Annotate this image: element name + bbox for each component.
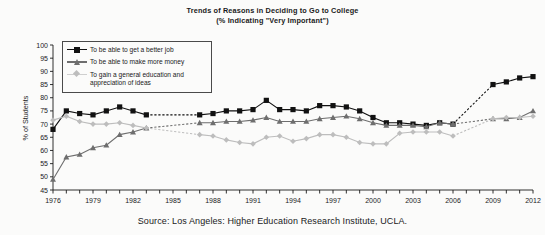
svg-text:55: 55 <box>40 160 48 167</box>
svg-text:100: 100 <box>36 42 48 49</box>
svg-text:1979: 1979 <box>85 197 101 204</box>
svg-text:2006: 2006 <box>445 197 461 204</box>
svg-text:85: 85 <box>40 81 48 88</box>
svg-text:1994: 1994 <box>285 197 301 204</box>
svg-text:1982: 1982 <box>125 197 141 204</box>
svg-text:2012: 2012 <box>525 197 541 204</box>
svg-text:1976: 1976 <box>45 197 61 204</box>
triangle-marker-icon <box>67 58 87 66</box>
chart-container: Trends of Reasons in Deciding to Go to C… <box>0 0 545 235</box>
source-caption: Source: Los Angeles: Higher Education Re… <box>0 216 545 226</box>
legend-item-better-job: To be able to get a better job <box>67 46 211 55</box>
chart-legend: To be able to get a better job To be abl… <box>62 41 212 93</box>
svg-text:2009: 2009 <box>485 197 501 204</box>
svg-text:90: 90 <box>40 68 48 75</box>
svg-text:75: 75 <box>40 107 48 114</box>
svg-text:80: 80 <box>40 94 48 101</box>
svg-text:1997: 1997 <box>325 197 341 204</box>
diamond-marker-icon <box>67 70 87 78</box>
plot-area: 4550556065707580859095100197619791982198… <box>0 0 545 235</box>
square-marker-icon <box>67 46 87 54</box>
svg-text:95: 95 <box>40 55 48 62</box>
legend-item-general-education: To gain a general education and apprecia… <box>67 70 211 87</box>
legend-label-more-money: To be able to make more money <box>90 58 184 67</box>
svg-text:50: 50 <box>40 173 48 180</box>
legend-item-more-money: To be able to make more money <box>67 58 211 67</box>
svg-text:45: 45 <box>40 187 48 194</box>
svg-text:1988: 1988 <box>205 197 221 204</box>
svg-text:70: 70 <box>40 121 48 128</box>
svg-text:1985: 1985 <box>165 197 181 204</box>
svg-text:1991: 1991 <box>245 197 261 204</box>
svg-text:2003: 2003 <box>405 197 421 204</box>
svg-text:65: 65 <box>40 134 48 141</box>
svg-text:2000: 2000 <box>365 197 381 204</box>
legend-label-better-job: To be able to get a better job <box>90 46 174 55</box>
svg-text:60: 60 <box>40 147 48 154</box>
legend-label-general-education: To gain a general education and apprecia… <box>90 70 211 87</box>
